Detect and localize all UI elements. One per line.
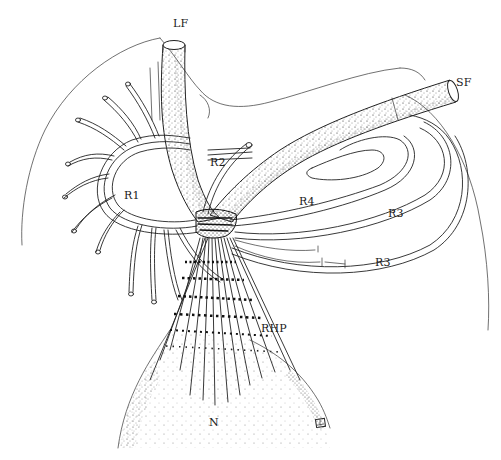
- label-rhp: RHP: [261, 323, 287, 334]
- lf-tube: [161, 41, 220, 223]
- label-r2: R2: [210, 157, 226, 168]
- label-r3-upper: R3: [388, 208, 404, 219]
- label-sf: SF: [456, 77, 472, 88]
- sf-tube: [210, 79, 461, 222]
- label-r4: R4: [299, 196, 315, 207]
- label-r3-lower: R3: [375, 257, 391, 268]
- diagram-canvas: LF SF R1 R2 R4 R3 R3 RHP N: [0, 0, 501, 460]
- label-n: N: [209, 417, 219, 428]
- anatomical-drawing: [0, 0, 501, 460]
- label-r1: R1: [124, 190, 140, 201]
- label-lf: LF: [173, 18, 188, 29]
- junction-knot: [196, 209, 237, 238]
- n-bulb: [118, 330, 330, 448]
